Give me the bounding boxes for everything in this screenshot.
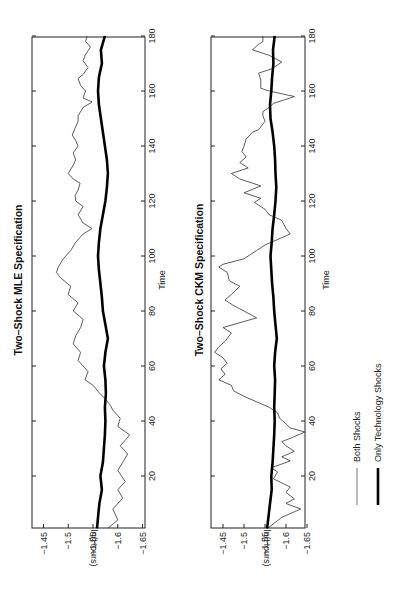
time-tick-label: 60	[307, 361, 317, 371]
legend: Both Shocks Only Technology Shocks	[352, 363, 383, 505]
panel-mle: Two–Shock MLE Specification 204060801001…	[12, 28, 167, 566]
series-only-technology-shocks	[267, 36, 277, 528]
time-tick-label: 80	[307, 306, 317, 316]
series-only-technology-shocks	[97, 36, 108, 528]
time-tick-label: 100	[307, 248, 317, 263]
panel-title: Two–Shock MLE Specification	[12, 205, 24, 356]
value-tick-label: −1.65	[302, 532, 312, 555]
time-axis: 20406080100120140160180	[211, 28, 317, 481]
figure: Two–Shock MLE Specification 204060801001…	[0, 0, 395, 606]
value-tick-label: −1.6	[281, 532, 291, 550]
time-tick-label: 20	[147, 471, 157, 481]
value-tick-label: −1.45	[39, 532, 49, 555]
time-tick-label: 40	[147, 416, 157, 426]
series-both-shocks	[215, 36, 305, 528]
time-tick-label: 160	[147, 83, 157, 98]
legend-label-only-technology-shocks: Only Technology Shocks	[373, 363, 383, 462]
panel-ckm: Two–Shock CKM Specification 204060801001…	[193, 28, 331, 566]
x-axis-label: Time	[321, 270, 331, 290]
time-tick-label: 20	[307, 471, 317, 481]
time-tick-label: 140	[307, 138, 317, 153]
time-tick-label: 60	[147, 361, 157, 371]
time-tick-label: 120	[147, 193, 157, 208]
time-tick-label: 180	[147, 28, 157, 43]
plot-frame	[211, 37, 305, 528]
x-axis-label: Time	[157, 270, 167, 290]
plot-frame	[32, 37, 145, 528]
time-tick-label: 160	[307, 83, 317, 98]
value-tick-label: −1.45	[218, 532, 228, 555]
value-tick-label: −1.5	[63, 532, 73, 550]
time-tick-label: 80	[147, 306, 157, 316]
time-axis: 20406080100120140160180	[32, 28, 157, 481]
time-tick-label: 100	[147, 248, 157, 263]
panel-title: Two–Shock CKM Specification	[193, 204, 205, 357]
time-tick-label: 120	[307, 193, 317, 208]
value-tick-label: −1.65	[138, 532, 148, 555]
y-axis-label: ln(Hours)	[89, 529, 99, 566]
time-tick-label: 40	[307, 416, 317, 426]
legend-label-both-shocks: Both Shocks	[352, 411, 362, 462]
series-both-shocks	[56, 36, 129, 528]
value-tick-label: −1.6	[113, 532, 123, 550]
time-tick-label: 140	[147, 138, 157, 153]
y-axis-label: ln(Hours)	[262, 529, 272, 566]
value-tick-label: −1.5	[239, 532, 249, 550]
time-tick-label: 180	[307, 28, 317, 43]
